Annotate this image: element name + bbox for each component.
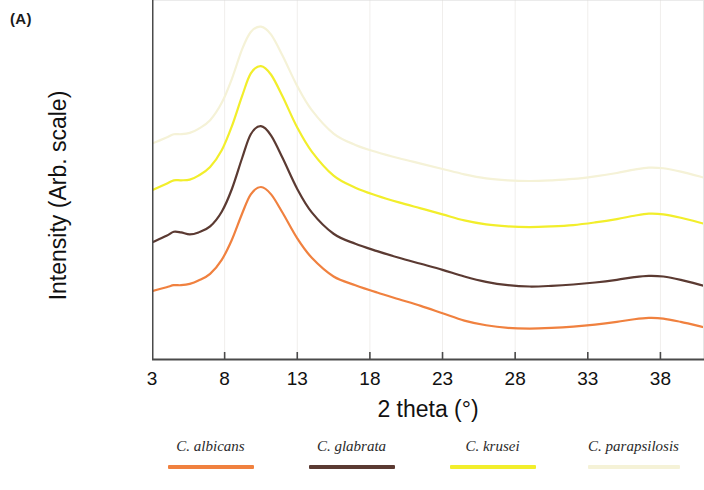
panel-label: (A) (10, 10, 32, 27)
plot-area (152, 0, 704, 368)
x-tick-label-3: 18 (359, 368, 380, 390)
x-axis-label: 2 theta (°) (152, 396, 704, 423)
x-tick-label-7: 38 (650, 368, 671, 390)
legend-label: C. parapsilosis (563, 438, 704, 455)
xrd-diffractogram-svg (152, 0, 704, 368)
legend-label: C. krusei (422, 438, 563, 455)
x-tick-label-5: 28 (505, 368, 526, 390)
legend-swatch (588, 465, 680, 469)
legend-item: C. albicans (140, 438, 281, 469)
x-tick-label-0: 3 (147, 368, 158, 390)
curve-c-parapsilosis (152, 27, 704, 181)
curve-c-glabrata (152, 126, 704, 286)
legend: C. albicansC. glabrataC. kruseiC. paraps… (140, 438, 704, 486)
legend-swatch (168, 465, 254, 469)
legend-item: C. krusei (422, 438, 563, 469)
curve-c-krusei (152, 66, 704, 227)
legend-swatch (309, 465, 395, 469)
data-curves (152, 27, 704, 329)
gridlines (225, 0, 661, 360)
legend-item: C. parapsilosis (563, 438, 704, 469)
x-tick-label-6: 33 (577, 368, 598, 390)
x-tick-label-2: 13 (287, 368, 308, 390)
legend-item: C. glabrata (281, 438, 422, 469)
x-tick-label-1: 8 (219, 368, 230, 390)
legend-label: C. glabrata (281, 438, 422, 455)
legend-swatch (450, 465, 536, 469)
x-tick-label-4: 23 (432, 368, 453, 390)
x-axis-tick-labels: 38131823283338 (152, 368, 704, 398)
y-axis-label: Intensity (Arb. scale) (45, 46, 72, 346)
legend-label: C. albicans (140, 438, 281, 455)
curve-c-albicans (152, 187, 704, 329)
